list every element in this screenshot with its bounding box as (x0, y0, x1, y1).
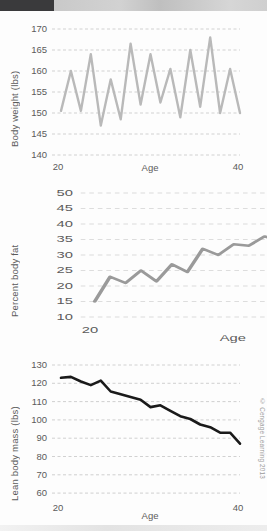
chart-percent-body-fat: Percent body fat 101520253035404550 2040… (0, 175, 267, 347)
copyright-notice: © Cengage Learning 2013 (259, 398, 266, 479)
svg-text:50: 50 (57, 188, 74, 199)
data-line-lean-body-mass (61, 377, 240, 444)
svg-text:100: 100 (31, 414, 47, 425)
svg-text:140: 140 (31, 149, 47, 160)
y-axis-tick-labels: 60708090100110120130 (31, 359, 47, 498)
svg-text:165: 165 (31, 44, 47, 55)
x-axis-label: Age (142, 162, 159, 173)
svg-text:145: 145 (31, 128, 47, 139)
body-weight-svg: 140145150155160165170 2040 Age (0, 11, 267, 175)
chart-body-weight: Body weight (lbs) 140145150155160165170 … (0, 11, 267, 175)
data-line-percent-body-fat (95, 212, 267, 302)
svg-text:40: 40 (233, 161, 244, 172)
svg-text:80: 80 (36, 451, 47, 462)
svg-text:10: 10 (57, 312, 74, 323)
svg-text:20: 20 (53, 161, 64, 172)
lean-body-mass-svg: 60708090100110120130 2040 Age (0, 347, 267, 525)
svg-text:90: 90 (36, 432, 47, 443)
svg-text:130: 130 (31, 359, 47, 370)
chart-lean-body-mass: Lean body mass (lbs) 6070809010011012013… (0, 347, 267, 525)
svg-text:40: 40 (233, 502, 244, 513)
data-line-body-weight (61, 37, 240, 125)
svg-text:120: 120 (31, 377, 47, 388)
y-axis-tick-labels: 140145150155160165170 (31, 23, 47, 160)
percent-body-fat-svg: 101520253035404550 2040 Age (0, 175, 267, 347)
svg-text:20: 20 (82, 325, 99, 336)
svg-text:35: 35 (57, 234, 74, 245)
svg-text:40: 40 (57, 219, 74, 230)
plot-area-lean-body-mass: 60708090100110120130 2040 Age (0, 347, 267, 525)
svg-text:155: 155 (31, 86, 47, 97)
plot-area-percent-body-fat: 101520253035404550 2040 Age (0, 175, 267, 347)
svg-text:20: 20 (53, 502, 64, 513)
svg-text:110: 110 (32, 396, 47, 407)
svg-text:30: 30 (57, 250, 74, 261)
y-axis-tick-labels: 101520253035404550 (57, 188, 74, 323)
svg-text:150: 150 (31, 107, 47, 118)
figure-panel: Body weight (lbs) 140145150155160165170 … (0, 0, 267, 531)
svg-text:60: 60 (36, 487, 47, 498)
plot-area-body-weight: 140145150155160165170 2040 Age (0, 11, 267, 175)
svg-text:160: 160 (31, 65, 47, 76)
x-axis-label: Age (220, 333, 246, 344)
scan-artifact-bottom (0, 525, 267, 531)
svg-text:170: 170 (31, 23, 47, 34)
gridlines (81, 193, 267, 317)
svg-text:20: 20 (57, 281, 74, 292)
svg-text:15: 15 (57, 296, 74, 307)
svg-text:45: 45 (57, 203, 74, 214)
svg-text:25: 25 (57, 265, 74, 276)
svg-text:70: 70 (36, 469, 47, 480)
x-axis-label: Age (142, 510, 159, 521)
scan-artifact-top (0, 0, 267, 11)
